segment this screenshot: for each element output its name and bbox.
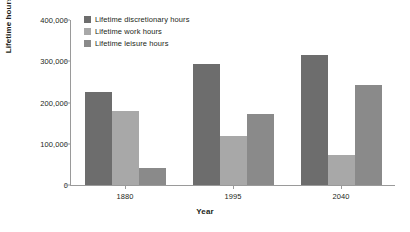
y-axis-tick-label: 400,000 [40,16,68,25]
legend-label: Lifetime discretionary hours [95,15,190,24]
bar[interactable] [355,85,382,185]
x-axis-title: Year [0,207,410,216]
bar[interactable] [85,92,112,185]
bar[interactable] [193,64,220,185]
legend-label: Lifetime work hours [95,27,162,36]
bar[interactable] [247,114,274,185]
y-axis-tick-label: 300,000 [40,57,68,66]
legend-swatch-icon [84,28,91,35]
y-axis-tick [65,61,70,62]
y-axis-tick [65,185,70,186]
x-axis-tick [125,185,126,189]
x-axis-tick [233,185,234,189]
y-axis-title: Lifetime hours [4,0,13,60]
bar[interactable] [220,136,247,186]
y-axis-tick-label: 100,000 [40,139,68,148]
bar-group [287,20,395,185]
bar[interactable] [139,168,166,185]
y-axis-tick-labels: 0100,000200,000300,000400,000 [24,0,68,232]
legend-swatch-icon [84,40,91,47]
bar[interactable] [328,155,355,185]
bar[interactable] [112,111,139,185]
x-axis-tick-label: 1995 [224,192,241,201]
legend-label: Lifetime leisure hours [95,39,168,48]
bar-group [179,20,287,185]
legend-item[interactable]: Lifetime leisure hours [84,38,190,48]
x-axis-tick [341,185,342,189]
y-axis-tick [65,143,70,144]
y-axis-tick [65,102,70,103]
chart-legend: Lifetime discretionary hoursLifetime wor… [84,14,190,50]
x-axis-tick-label: 1880 [116,192,133,201]
legend-item[interactable]: Lifetime work hours [84,26,190,36]
legend-swatch-icon [84,16,91,23]
bar-chart: Lifetime hours 0100,000200,000300,000400… [0,0,410,232]
x-axis-tick-label: 2040 [332,192,349,201]
y-axis-tick-label: 200,000 [40,98,68,107]
legend-item[interactable]: Lifetime discretionary hours [84,14,190,24]
y-axis-tick [65,20,70,21]
bar[interactable] [301,55,328,185]
